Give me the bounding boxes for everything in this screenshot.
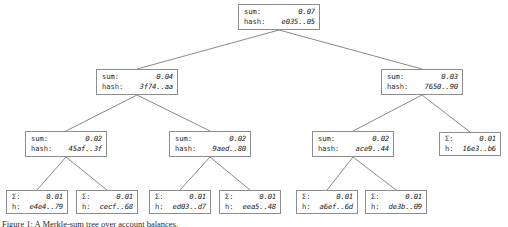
node-hash-label: h: <box>445 144 456 154</box>
tree-edge <box>279 30 422 69</box>
tree-edge <box>180 157 210 190</box>
tree-edge <box>37 157 66 190</box>
node-hash-value: 7650..90 <box>422 82 458 92</box>
tree-leaf-node[interactable]: Σ:0.01h:e4e4..79 <box>6 190 68 214</box>
node-hash-label: h: <box>155 202 166 212</box>
node-sum-value: 0.07 <box>295 7 315 17</box>
tree-edge <box>137 30 279 69</box>
node-hash-value: e4e4..79 <box>28 202 63 212</box>
node-hash-label: hash: <box>387 82 413 92</box>
node-sum-label: Σ: <box>445 134 456 144</box>
tree-leaf-node[interactable]: Σ:0.01h:de3b..09 <box>365 190 427 214</box>
node-sum-label: Σ: <box>302 192 313 202</box>
node-sum-value: 0.01 <box>402 192 422 202</box>
node-hash-value: 9aed..80 <box>210 144 246 154</box>
node-sum-label: Σ: <box>12 192 23 202</box>
node-hash-label: h: <box>371 202 382 212</box>
node-sum-value: 0.02 <box>369 134 389 144</box>
node-sum-label: sum: <box>102 72 128 82</box>
tree-edge <box>327 157 353 190</box>
node-sum-value: 0.04 <box>153 72 173 82</box>
tree-edge <box>66 95 137 131</box>
node-sum-value: 0.01 <box>476 134 496 144</box>
node-sum-label: sum: <box>175 134 201 144</box>
node-hash-value: eea5..48 <box>241 202 276 212</box>
tree-edge <box>353 157 396 190</box>
tree-edge <box>353 95 422 131</box>
tree-internal-node[interactable]: sum:0.02hash:45af..3f <box>25 131 107 157</box>
node-hash-label: hash: <box>31 144 57 154</box>
node-sum-label: Σ: <box>82 192 93 202</box>
node-hash-label: h: <box>225 202 236 212</box>
node-sum-value: 0.02 <box>226 134 246 144</box>
tree-internal-node[interactable]: sum:0.04hash:3f74..aa <box>96 69 178 95</box>
node-hash-value: e035..05 <box>279 17 315 27</box>
node-hash-label: h: <box>82 202 93 212</box>
node-sum-value: 0.03 <box>438 72 458 82</box>
tree-internal-node[interactable]: sum:0.02hash:9aed..80 <box>169 131 251 157</box>
node-sum-label: sum: <box>31 134 57 144</box>
node-sum-label: Σ: <box>155 192 166 202</box>
node-hash-value: 16e3..b6 <box>461 144 496 154</box>
node-sum-value: 0.02 <box>82 134 102 144</box>
node-hash-value: ed03..d7 <box>171 202 206 212</box>
node-sum-label: sum: <box>318 134 344 144</box>
node-sum-value: 0.01 <box>113 192 133 202</box>
node-sum-label: sum: <box>387 72 413 82</box>
node-sum-label: Σ: <box>371 192 382 202</box>
node-sum-value: 0.01 <box>186 192 206 202</box>
node-hash-label: hash: <box>102 82 128 92</box>
node-hash-label: h: <box>302 202 313 212</box>
figure-caption: Figure 1: A Merkle-sum tree over account… <box>2 219 302 227</box>
node-hash-value: cecf..68 <box>98 202 133 212</box>
node-sum-label: Σ: <box>225 192 236 202</box>
node-hash-label: hash: <box>318 144 344 154</box>
node-sum-value: 0.01 <box>256 192 276 202</box>
node-hash-value: 45af..3f <box>66 144 102 154</box>
merkle-sum-tree-diagram: sum:0.07hash:e035..05sum:0.04hash:3f74..… <box>0 0 508 227</box>
tree-leaf-node[interactable]: Σ:0.01h:ed03..d7 <box>149 190 211 214</box>
tree-edge <box>137 95 210 131</box>
node-hash-label: h: <box>12 202 23 212</box>
tree-leaf-node[interactable]: Σ:0.01h:cecf..68 <box>76 190 138 214</box>
tree-internal-node[interactable]: sum:0.07hash:e035..05 <box>238 4 320 30</box>
tree-leaf-node[interactable]: Σ:0.01h:eea5..48 <box>219 190 281 214</box>
node-sum-value: 0.01 <box>333 192 353 202</box>
tree-leaf-node[interactable]: Σ:0.01h:16e3..b6 <box>439 132 501 156</box>
node-hash-value: 3f74..aa <box>137 82 173 92</box>
tree-edge <box>422 95 470 132</box>
node-hash-label: hash: <box>175 144 201 154</box>
node-sum-value: 0.01 <box>43 192 63 202</box>
tree-internal-node[interactable]: sum:0.03hash:7650..90 <box>381 69 463 95</box>
node-sum-label: sum: <box>244 7 270 17</box>
node-hash-value: a6ef..6d <box>318 202 353 212</box>
tree-edge <box>66 157 107 190</box>
node-hash-value: ace9..44 <box>353 144 389 154</box>
node-hash-label: hash: <box>244 17 270 27</box>
tree-edge <box>210 157 250 190</box>
tree-leaf-node[interactable]: Σ:0.01h:a6ef..6d <box>296 190 358 214</box>
tree-internal-node[interactable]: sum:0.02hash:ace9..44 <box>312 131 394 157</box>
node-hash-value: de3b..09 <box>387 202 422 212</box>
